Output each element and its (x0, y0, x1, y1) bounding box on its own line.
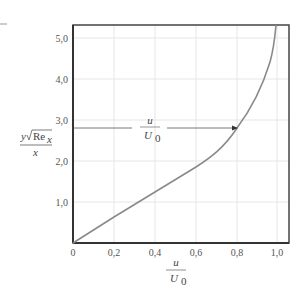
svg-text:x: x (32, 146, 38, 158)
plot-frame (73, 25, 289, 243)
svg-text:u: u (147, 114, 153, 126)
svg-text:U: U (170, 272, 179, 284)
grid (73, 25, 289, 243)
svg-text:1,0: 1,0 (271, 247, 284, 258)
svg-text:1,0: 1,0 (56, 197, 69, 208)
svg-text:u: u (173, 256, 179, 268)
svg-text:0: 0 (155, 132, 161, 144)
y-axis-label: y Re x x (20, 130, 52, 158)
annotation-label: u U 0 (140, 114, 161, 144)
svg-text:Re: Re (33, 130, 45, 142)
velocity-profile-curve (73, 25, 276, 243)
svg-text:0,6: 0,6 (190, 247, 203, 258)
svg-text:0: 0 (181, 275, 187, 287)
y-tick-labels: 1,0 2,0 3,0 4,0 5,0 (56, 33, 69, 208)
svg-text:x: x (46, 133, 52, 145)
svg-text:U: U (144, 129, 153, 141)
svg-text:5,0: 5,0 (56, 33, 69, 44)
svg-text:3,0: 3,0 (56, 115, 69, 126)
svg-text:y: y (20, 130, 26, 142)
svg-text:4,0: 4,0 (56, 74, 69, 85)
svg-text:0,4: 0,4 (149, 247, 162, 258)
chart: u U 0 1,0 2,0 3,0 4,0 5,0 0 0,2 0,4 0,6 … (0, 0, 303, 298)
svg-text:2,0: 2,0 (56, 156, 69, 167)
svg-text:0: 0 (71, 247, 76, 258)
svg-text:0,8: 0,8 (231, 247, 244, 258)
svg-text:0,2: 0,2 (108, 247, 121, 258)
x-axis-label: u U 0 (166, 256, 187, 287)
